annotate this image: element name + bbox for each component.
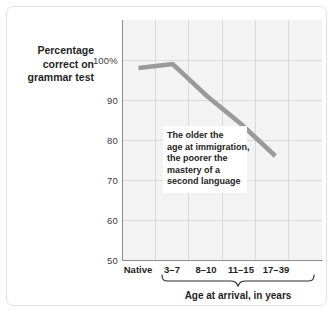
y-tick-90: 90 — [0, 95, 118, 106]
annotation-line-4: mastery of a — [167, 165, 242, 177]
group-brace-icon — [160, 274, 316, 288]
y-tick-70: 70 — [0, 175, 118, 186]
x-axis-title: Age at arrival, in years — [160, 290, 316, 301]
chart-figure: Percentage correct on grammar test 100% … — [0, 0, 335, 314]
y-tick-50: 50 — [0, 255, 118, 266]
y-tick-80: 80 — [0, 135, 118, 146]
annotation-line-1: The older the — [167, 130, 242, 142]
annotation-line-5: second language — [167, 176, 242, 188]
y-tick-100: 100% — [0, 55, 118, 66]
annotation-line-3: the poorer the — [167, 153, 242, 165]
x-axis-line — [122, 260, 323, 261]
y-tick-60: 60 — [0, 215, 118, 226]
y-axis-ticks: 100% 90 80 70 60 50 — [0, 0, 118, 314]
annotation-line-2: age at immigration, — [167, 142, 242, 154]
x-tick-native: Native — [124, 264, 153, 275]
annotation-callout: The older the age at immigration, the po… — [163, 126, 247, 193]
